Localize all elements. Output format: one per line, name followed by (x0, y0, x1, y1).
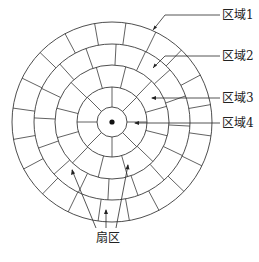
sector-divider (131, 176, 138, 196)
sector-divider (95, 24, 99, 46)
sector-divider (150, 164, 164, 180)
sector-divider (189, 133, 211, 136)
zone4-label: 区域4 (222, 116, 254, 130)
disk-zone-diagram: 区域1 区域2 区域3 区域4 扇区 (0, 0, 259, 262)
sector-divider (38, 141, 58, 148)
sector-divider (123, 97, 137, 111)
sector-divider (54, 160, 70, 174)
sector-divider (98, 199, 101, 221)
sector-divider (96, 67, 102, 88)
sector-label: 扇区 (96, 230, 120, 245)
sector-divider (65, 34, 75, 53)
sector-divider (123, 23, 126, 45)
sector-divider (181, 75, 200, 85)
sector-divider (71, 82, 87, 97)
sector-divider (123, 133, 137, 147)
spindle-center-dot (109, 119, 114, 124)
sector-divider (115, 44, 116, 65)
sector-divider (168, 176, 184, 191)
sector-divider (87, 133, 101, 147)
sector-divider (166, 96, 186, 103)
sector-divider (43, 178, 58, 194)
sector-divider (34, 118, 55, 119)
zone1-leader (153, 15, 220, 30)
sector-divider (22, 78, 42, 88)
sector-divider (57, 132, 78, 138)
zone1-label: 区域1 (222, 8, 254, 22)
sector-divider (149, 191, 159, 210)
sector-divider (13, 108, 35, 111)
sector-divider (146, 130, 167, 135)
arrow-icon (126, 164, 130, 170)
sector-divider (98, 156, 103, 177)
zone-leader-lines (134, 15, 220, 125)
sector-divider (146, 32, 156, 52)
zone2-leader (153, 56, 220, 68)
sector-divider (68, 192, 78, 212)
sector-leader-lines (71, 164, 130, 228)
sector-divider (60, 64, 74, 80)
sector-divider (72, 147, 87, 163)
sector-divider (137, 52, 146, 71)
arrow-icon (71, 169, 75, 175)
sector-divider (126, 199, 130, 221)
zone2-label: 区域2 (222, 49, 254, 63)
sector-divider (87, 97, 101, 111)
arrow-icon (151, 96, 156, 100)
sector-divider (136, 81, 151, 97)
zone3-label: 区域3 (222, 91, 254, 105)
sector-divider (169, 125, 190, 126)
sector-divider (86, 48, 93, 68)
sector-divider (42, 88, 61, 97)
sector-divider (163, 147, 182, 156)
sector-divider (120, 67, 125, 88)
sector-divider (14, 136, 36, 140)
sector-divider (57, 108, 78, 113)
sector-divider (189, 105, 211, 109)
sector-divider (24, 159, 43, 169)
sector-divider (137, 146, 153, 161)
arrow-icon (104, 209, 108, 214)
sector-divider (146, 106, 167, 112)
sector-divider (108, 179, 109, 200)
sector-divider (122, 156, 128, 177)
sector-divider (182, 156, 202, 166)
sector-divider (166, 50, 181, 66)
sector-divider (40, 53, 56, 68)
sector-divider (154, 70, 170, 84)
